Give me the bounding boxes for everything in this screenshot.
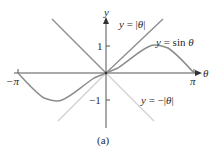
figure-caption: (a) [97,134,110,147]
tick-label-1: 1 [97,40,103,52]
tick-label-pi: π [190,75,196,87]
label-sin-theta: y = sin θ [155,36,194,48]
tick-label-neg-pi: −π [6,75,19,87]
figure: y θ 1 −1 −π π y = |θ| y = sin θ y = −|θ|… [0,0,213,152]
label-abs-theta: y = |θ| [118,18,145,30]
y-axis-arrow-icon [103,17,109,24]
y-axis-label: y [103,6,109,18]
x-axis-arrow-icon [195,70,202,76]
label-neg-abs-theta: y = −|θ| [140,94,174,106]
tick-label-neg1: −1 [89,94,101,106]
origin-point [105,72,108,75]
x-axis-label: θ [203,67,209,79]
